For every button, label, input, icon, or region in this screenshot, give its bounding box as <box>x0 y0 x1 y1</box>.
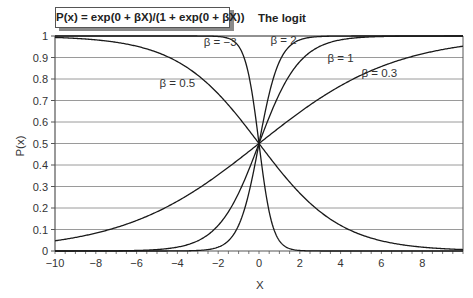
y-tick-label: 0.6 <box>33 116 48 128</box>
x-tick-label: −2 <box>212 257 225 269</box>
x-tick-label: 0 <box>256 257 262 269</box>
curve-labels: β = −3β = 2β = 1β = 0.3β = 0.5 <box>160 34 398 89</box>
y-tick-label: 0 <box>42 245 48 257</box>
x-tick-label: 8 <box>419 257 425 269</box>
y-tick-label: 1 <box>42 30 48 42</box>
x-tick-label: 6 <box>378 257 384 269</box>
x-tick-label: 4 <box>338 257 344 269</box>
y-tick-label: 0.9 <box>33 52 48 64</box>
curve-label: β = 2 <box>270 34 296 46</box>
x-axis-label: X <box>256 279 264 291</box>
y-tick-label: 0.3 <box>33 181 48 193</box>
y-tick-label: 0.8 <box>33 73 48 85</box>
y-tick-label: 0.4 <box>33 159 48 171</box>
curve-label: β = 1 <box>328 52 354 64</box>
logit-chart: 00.10.20.30.40.50.60.70.80.91−10−8−6−4−2… <box>0 0 473 298</box>
curve-label: β = 0.3 <box>362 67 398 79</box>
gridlines <box>55 36 463 230</box>
y-tick-label: 0.2 <box>33 202 48 214</box>
x-tick-label: −8 <box>90 257 103 269</box>
x-tick-label: −6 <box>130 257 143 269</box>
y-tick-label: 0.5 <box>33 138 48 150</box>
curve-label: β = 0.5 <box>160 77 196 89</box>
y-tick-label: 0.7 <box>33 95 48 107</box>
x-tick-label: −4 <box>171 257 184 269</box>
curve-label: β = −3 <box>204 36 237 48</box>
y-tick-label: 0.1 <box>33 224 48 236</box>
x-tick-label: −10 <box>46 257 65 269</box>
x-tick-label: 2 <box>297 257 303 269</box>
y-axis-label: P(x) <box>14 135 26 156</box>
